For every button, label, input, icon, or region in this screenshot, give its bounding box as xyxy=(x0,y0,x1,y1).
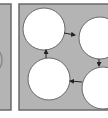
node-4 xyxy=(28,58,70,100)
node-1 xyxy=(23,8,65,50)
cycle-diagram xyxy=(0,0,108,118)
